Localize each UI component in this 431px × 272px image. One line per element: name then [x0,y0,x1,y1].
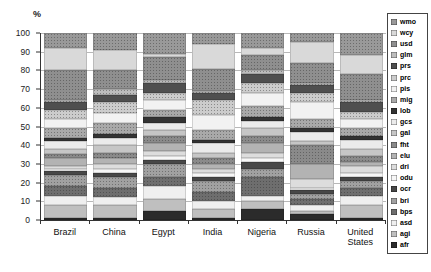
bar-segment-asd [340,196,383,205]
legend-marker-elu [391,153,397,159]
x-category-label: Nigeria [237,227,286,247]
bar-segment-wmo [93,33,136,50]
bar-segment-asd [44,196,87,205]
legend-item-wmo: wmo [391,17,427,26]
bar-segment-gcs [143,123,186,130]
bar-segment-asd [143,186,186,199]
bar-segment-wcy [340,55,383,74]
bar-slot [337,33,386,220]
x-tick-mark [89,220,90,224]
bar-slot [90,33,139,220]
legend-label-bri: bri [400,197,409,205]
bar-segment-elu [290,164,333,179]
bar-segment-agi [192,209,235,218]
bar-segment-wcy [192,44,235,68]
legend-label-fht: fht [400,141,409,149]
bar-segment-prs [93,95,136,102]
bar-segment-mig [143,110,186,117]
y-tick-label: 30 [21,159,30,169]
y-tick-label: 20 [21,178,30,188]
bar-segment-usd [241,55,284,70]
legend-item-bri: bri [391,196,427,205]
bar-segment-fht [143,136,186,143]
legend-marker-lob [391,108,397,114]
bar-segment-bri [241,169,284,176]
y-tick-label: 10 [21,196,30,206]
bar-segment-gcs [241,121,284,128]
bar-segment-dri [290,179,333,188]
legend-item-mig: mig [391,95,427,104]
x-category-label: India [188,227,237,247]
stacked-bar-india [192,33,235,220]
bar-segment-pis [143,100,186,109]
x-axis-labels: BrazilChinaEgyptIndiaNigeriaRussiaUnited… [40,227,385,247]
bar-slot [238,33,287,220]
bar-segment-agi [93,205,136,218]
bar-segment-gcs [290,132,333,141]
x-tick-mark [40,220,41,224]
bar-segment-agi [340,205,383,218]
x-tick-mark [286,220,287,224]
legend-label-lob: lob [400,107,411,115]
x-category-label: Brazil [40,227,89,247]
bar-segment-gcs [93,138,136,145]
legend-marker-dri [391,164,397,170]
bar-segment-pis [192,115,235,130]
legend-item-fht: fht [391,140,427,149]
x-category-label: United States [336,227,385,247]
bar-segment-prc [44,110,87,119]
y-tick-label: 40 [21,140,30,150]
bar-segment-gcs [340,140,383,149]
bar-segment-usd [192,69,235,91]
bar-segment-wmo [143,33,186,54]
bar-segment-pis [44,119,87,128]
legend-item-bps: bps [391,207,427,216]
legend-label-pis: pis [400,85,410,93]
bar-segment-bps [192,192,235,201]
bar-segment-elu [241,143,284,152]
bar-segment-fht [290,145,333,164]
legend-marker-bps [391,209,397,215]
y-tick-label: 70 [21,84,30,94]
legend-label-prc: prc [400,74,411,82]
bar-segment-prs [290,85,333,92]
bar-segment-usd [340,74,383,100]
stacked-bar-china [93,33,136,220]
bar-segment-mig [192,130,235,139]
bar-segment-usd [143,57,186,79]
legend: wmowcyusdglmprsprcpismiglobgcsgalfhtelud… [387,13,428,254]
legend-item-afr: afr [391,241,427,250]
bar-segment-dri [340,166,383,173]
legend-marker-odu [391,175,397,181]
bar-segment-prs [143,83,186,92]
bar-segment-pis [340,119,383,128]
legend-item-pis: pis [391,84,427,93]
stacked-bar-chart-figure: % 0102030405060708090100 BrazilChinaEgyp… [0,0,431,272]
legend-marker-afr [391,242,397,248]
legend-label-ocr: ocr [400,185,411,193]
y-tick-label: 60 [21,103,30,113]
legend-item-odu: odu [391,174,427,183]
legend-item-agi: agi [391,230,427,239]
legend-marker-agi [391,231,397,237]
bar-segment-bri [340,181,383,188]
bar-segment-gal [241,128,284,135]
legend-item-wcy: wcy [391,28,427,37]
bar-segment-asd [192,201,235,208]
bar-segment-mig [241,106,284,117]
legend-item-ocr: ocr [391,185,427,194]
bar-segment-mig [44,128,87,137]
bar-slot [287,33,336,220]
bar-segment-gcs [44,141,87,148]
y-axis: 0102030405060708090100 [0,33,40,220]
legend-item-gal: gal [391,129,427,138]
y-tick-label: 100 [16,28,30,38]
y-tick-label: 90 [21,47,30,57]
bar-segment-agi [143,199,186,210]
legend-item-usd: usd [391,39,427,48]
y-tick-label: 0 [25,215,30,225]
legend-label-afr: afr [400,241,409,249]
bar-segment-wcy [241,48,284,55]
bar-segment-gal [93,145,136,152]
bar-segment-wmo [290,33,333,42]
